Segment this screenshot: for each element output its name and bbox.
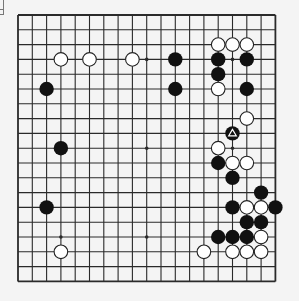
black-stone-icon [39,82,53,96]
white-stone-icon [240,201,254,215]
black-stone-icon [211,67,225,81]
white-stone-icon [54,245,68,259]
white-stone-icon [240,112,254,126]
black-stone-icon [225,200,239,214]
black-stone-icon [211,230,225,244]
black-stone-icon [211,52,225,66]
white-stone-icon [83,53,97,67]
white-stone-icon [240,38,254,52]
black-stone-icon [168,52,182,66]
black-stone-icon [254,215,268,229]
black-stone-icon [225,230,239,244]
white-stone-icon [240,245,254,259]
black-stone-icon [240,82,254,96]
black-stone-icon [254,185,268,199]
star-point-icon [145,146,149,150]
white-stone-icon [211,38,225,52]
black-stone-icon [168,82,182,96]
white-stone-icon [126,53,140,67]
star-point-icon [231,58,235,62]
white-stone-icon [211,82,225,96]
white-stone-icon [54,53,68,67]
go-board[interactable] [0,0,299,301]
black-stone-icon [240,215,254,229]
black-stone-icon [240,52,254,66]
black-stone-icon [225,171,239,185]
white-stone-icon [226,38,240,52]
black-stone-icon [211,156,225,170]
black-stone-icon [39,200,53,214]
black-stone-icon [268,200,282,214]
white-stone-icon [226,245,240,259]
white-stone-icon [254,201,268,215]
white-stone-icon [226,156,240,170]
white-stone-icon [254,230,268,244]
star-point-icon [231,146,235,150]
star-point-icon [145,235,149,239]
star-point-icon [145,58,149,62]
white-stone-icon [254,245,268,259]
white-stone-icon [240,156,254,170]
white-stone-icon [197,245,211,259]
black-stone-icon [54,141,68,155]
star-point-icon [59,235,63,239]
black-stone-icon [240,230,254,244]
white-stone-icon [211,141,225,155]
